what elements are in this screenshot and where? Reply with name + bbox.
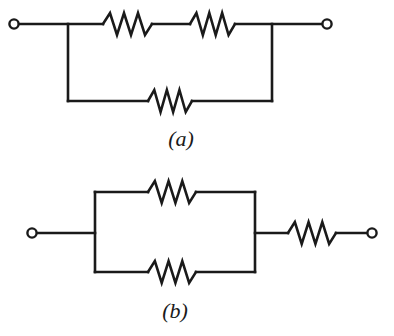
terminal-node-left-terminal[interactable]	[9, 19, 18, 28]
resistor-bottom	[148, 90, 192, 112]
caption-b: (b)	[162, 298, 188, 323]
resistor-parallel-top	[148, 181, 196, 203]
resistor-top-left	[103, 13, 152, 35]
resistor-top-right	[190, 13, 235, 35]
resistor-series-right	[288, 222, 336, 244]
terminal-node-right-terminal[interactable]	[367, 228, 376, 237]
terminal-node-left-terminal[interactable]	[27, 228, 36, 237]
caption-a: (a)	[168, 126, 194, 151]
terminal-node-right-terminal[interactable]	[322, 19, 331, 28]
circuit-b: (b)	[27, 181, 376, 323]
resistor-parallel-bottom	[148, 261, 196, 283]
circuit-a: (a)	[9, 13, 331, 151]
circuit-figure: (a)(b)	[0, 0, 394, 336]
circuit-diagram-canvas: (a)(b)	[0, 0, 394, 336]
